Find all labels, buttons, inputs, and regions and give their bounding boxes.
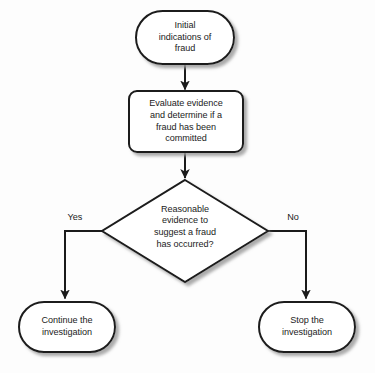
node-process-shape xyxy=(129,91,243,152)
edge-decision-yes xyxy=(65,231,104,299)
node-start-shape xyxy=(136,11,234,64)
node-decision-shape xyxy=(102,180,268,282)
node-end-left-shape xyxy=(19,302,115,352)
flowchart-canvas: Initial indications of fraud Evaluate ev… xyxy=(0,0,375,373)
flowchart-graphics xyxy=(0,0,375,373)
edge-decision-no xyxy=(268,231,306,299)
node-end-right-shape xyxy=(259,302,355,352)
